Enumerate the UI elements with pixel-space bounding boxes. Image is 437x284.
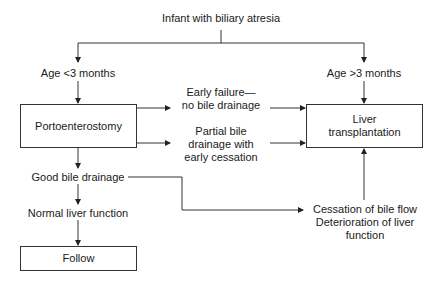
follow-box: Follow (20, 246, 137, 271)
good-bile-drainage: Good bile drainage (28, 171, 128, 184)
partial-drainage-label: Partial bile drainage with early cessati… (172, 125, 270, 164)
liver-transplant-line2: transplantation (328, 126, 400, 139)
partial-line1: Partial bile (172, 125, 270, 138)
follow-label: Follow (63, 252, 95, 265)
early-failure-line1: Early failure— (172, 86, 270, 99)
portoenterostomy-label: Portoenterostomy (35, 120, 122, 133)
cessation-line1: Cessation of bile flow (306, 203, 424, 216)
cessation-line2: Deterioration of liver (306, 216, 424, 229)
early-failure-label: Early failure— no bile drainage (172, 86, 270, 112)
root-node: Infant with biliary atresia (150, 12, 292, 25)
normal-liver-function: Normal liver function (18, 207, 138, 220)
cessation-label: Cessation of bile flow Deterioration of … (306, 203, 424, 242)
portoenterostomy-box: Portoenterostomy (20, 104, 137, 148)
early-failure-line2: no bile drainage (172, 99, 270, 112)
partial-line3: early cessation (172, 151, 270, 164)
age-under-3-months: Age <3 months (28, 67, 128, 80)
liver-transplantation-box: Liver transplantation (306, 104, 423, 148)
liver-transplant-line1: Liver (353, 113, 377, 126)
partial-line2: drainage with (172, 138, 270, 151)
age-over-3-months: Age >3 months (314, 67, 414, 80)
cessation-line3: function (306, 229, 424, 242)
